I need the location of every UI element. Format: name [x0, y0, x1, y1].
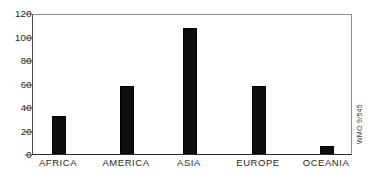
y-tick-mark-100 [25, 37, 32, 38]
plot-area [33, 15, 351, 154]
y-tick-mark-20 [25, 131, 32, 132]
x-label-america: AMERICA [102, 158, 149, 168]
bar-chart: 120 100 80 60 40 20 0 AFRICA AMERICA ASI… [0, 0, 371, 176]
bar-oceania [320, 146, 334, 154]
y-tick-mark-40 [25, 108, 32, 109]
x-label-asia: ASIA [177, 158, 201, 168]
plot-frame [32, 14, 352, 155]
bar-america [120, 86, 134, 154]
bar-europe [252, 86, 266, 154]
y-tick-mark-120 [25, 14, 32, 15]
bar-africa [52, 116, 66, 155]
y-tick-mark-80 [25, 61, 32, 62]
x-label-oceania: OCEANIA [303, 158, 350, 168]
y-tick-mark-0 [25, 155, 32, 156]
source-credit-label: WMO 9/545 [356, 104, 363, 144]
bar-asia [183, 28, 197, 154]
x-label-africa: AFRICA [39, 158, 77, 168]
x-label-europe: EUROPE [236, 158, 279, 168]
y-tick-mark-60 [25, 84, 32, 85]
